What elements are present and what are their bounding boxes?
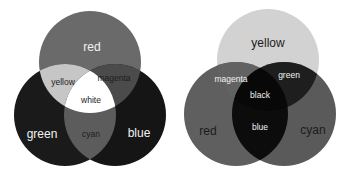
- additive-venn-diagram: red green blue yellow magenta white cyan: [14, 11, 166, 166]
- label-green: green: [278, 70, 300, 80]
- label-blue: blue: [128, 126, 151, 140]
- label-black: black: [250, 90, 271, 100]
- subtractive-venn-diagram: yellow red cyan magenta green black blue: [184, 9, 336, 166]
- label-white: white: [80, 95, 101, 105]
- label-yellow: yellow: [251, 36, 285, 50]
- label-blue: blue: [252, 122, 268, 132]
- label-magenta: magenta: [97, 73, 130, 83]
- label-red: red: [199, 124, 216, 138]
- label-magenta: magenta: [214, 74, 247, 84]
- label-green: green: [27, 127, 58, 141]
- label-yellow: yellow: [51, 77, 75, 87]
- label-cyan: cyan: [300, 123, 325, 137]
- label-cyan: cyan: [82, 129, 100, 139]
- label-red: red: [83, 40, 100, 54]
